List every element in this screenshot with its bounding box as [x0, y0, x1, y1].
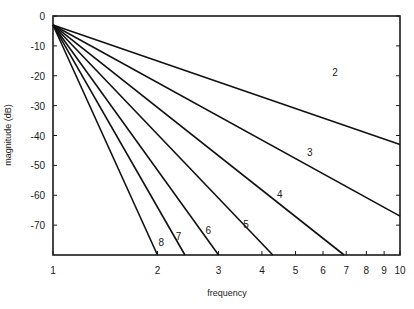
x-tick-label: 7 — [343, 265, 349, 276]
y-tick-label: -70 — [31, 220, 46, 231]
y-tick-label: -40 — [31, 131, 46, 142]
y-tick-label: -50 — [31, 160, 46, 171]
y-tick-label: -20 — [31, 71, 46, 82]
curve-order-7 — [53, 25, 185, 255]
y-tick-label: -30 — [31, 101, 46, 112]
curve-labels: 2345678 — [158, 67, 338, 248]
y-tick-label: -10 — [31, 41, 46, 52]
chart: 0-10-20-30-40-50-60-70 12345678910 23456… — [0, 0, 414, 309]
curve-label-3: 3 — [307, 147, 313, 158]
plot-frame — [53, 16, 400, 255]
curve-label-8: 8 — [158, 237, 164, 248]
x-tick-label: 2 — [155, 265, 161, 276]
curve-order-3 — [53, 25, 400, 216]
curve-order-6 — [53, 25, 219, 255]
x-tick-label: 3 — [216, 265, 222, 276]
curve-order-2 — [53, 25, 400, 144]
y-tick-label: -60 — [31, 190, 46, 201]
x-axis-title: frequency — [207, 288, 247, 298]
x-tick-label: 1 — [50, 265, 56, 276]
x-tick-label: 10 — [394, 265, 406, 276]
curve-order-8 — [53, 25, 157, 255]
curve-order-5 — [53, 25, 273, 255]
x-tick-label: 6 — [320, 265, 326, 276]
curve-label-6: 6 — [205, 225, 211, 236]
x-tick-label: 9 — [381, 265, 387, 276]
curves — [53, 25, 400, 255]
x-tick-label: 8 — [364, 265, 370, 276]
curve-label-4: 4 — [277, 189, 283, 200]
curve-label-5: 5 — [243, 219, 249, 230]
y-tick-label: 0 — [39, 11, 45, 22]
x-tick-label: 4 — [259, 265, 265, 276]
curve-order-4 — [53, 25, 344, 255]
curve-label-7: 7 — [176, 231, 182, 242]
x-tick-label: 5 — [293, 265, 299, 276]
y-axis-title: magnitude (dB) — [3, 104, 13, 166]
curve-label-2: 2 — [332, 67, 338, 78]
